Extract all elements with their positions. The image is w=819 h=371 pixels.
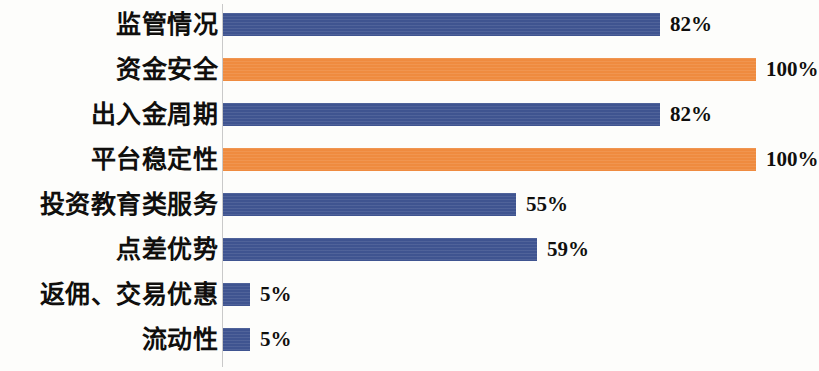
- bar-row: 监管情况82%: [0, 2, 815, 47]
- category-label: 出入金周期: [91, 92, 219, 137]
- bar: [223, 58, 756, 81]
- bar-row: 投资教育类服务55%: [0, 182, 815, 227]
- bar-value-label: 100%: [766, 47, 819, 92]
- bar-row: 返佣、交易优惠5%: [0, 272, 815, 317]
- bar: [223, 328, 250, 351]
- category-label: 流动性: [142, 317, 219, 362]
- category-label: 监管情况: [116, 2, 218, 47]
- bar-value-label: 82%: [670, 92, 712, 137]
- bar-value-label: 55%: [526, 182, 568, 227]
- bar-value-label: 5%: [260, 317, 292, 362]
- category-label: 点差优势: [116, 227, 218, 272]
- bar: [223, 148, 756, 171]
- bar-row: 点差优势59%: [0, 227, 815, 272]
- bar-value-label: 82%: [670, 2, 712, 47]
- bar-value-label: 59%: [547, 227, 589, 272]
- bar-row: 出入金周期82%: [0, 92, 815, 137]
- category-label: 投资教育类服务: [40, 182, 219, 227]
- bar-value-label: 5%: [260, 272, 292, 317]
- category-label: 资金安全: [116, 47, 218, 92]
- bar: [223, 103, 660, 126]
- bar-value-label: 100%: [766, 137, 819, 182]
- bar: [223, 283, 250, 306]
- bar: [223, 13, 660, 36]
- bar-row: 流动性5%: [0, 317, 815, 362]
- bar-row: 资金安全100%: [0, 47, 815, 92]
- category-label: 返佣、交易优惠: [40, 272, 219, 317]
- category-label: 平台稳定性: [91, 137, 219, 182]
- bar: [223, 238, 537, 261]
- bar-row: 平台稳定性100%: [0, 137, 815, 182]
- bar: [223, 193, 516, 216]
